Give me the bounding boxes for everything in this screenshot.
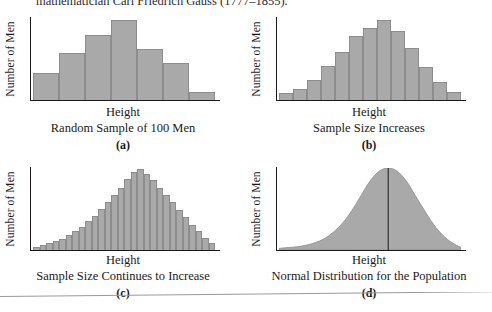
x-axis-line-b: [276, 100, 466, 101]
caption-d: Height Normal Distribution for the Popul…: [246, 253, 492, 301]
histogram-bar: [321, 66, 335, 100]
normal-curve-d: [279, 168, 461, 250]
histogram-bar: [363, 28, 377, 100]
x-axis-line-c: [30, 250, 220, 251]
histogram-bar: [163, 63, 189, 100]
y-axis-line-c: [30, 167, 31, 251]
figure-grid: Number of Men Height Random Sample of 10…: [0, 13, 492, 312]
histogram-bar: [85, 35, 111, 100]
histogram-bar: [293, 89, 307, 100]
histogram-bar: [33, 73, 59, 100]
y-axis-line-b: [276, 17, 277, 101]
caption-a: Height Random Sample of 100 Men (a): [0, 105, 246, 153]
histogram-bar: [307, 80, 321, 100]
x-axis-label-b: Height: [246, 105, 492, 120]
histogram-bar: [209, 243, 216, 250]
y-axis-label-a: Number of Men: [2, 17, 18, 101]
y-axis-line-d: [276, 167, 277, 251]
histogram-bar: [349, 36, 363, 100]
histogram-bar: [419, 67, 433, 100]
histogram-bar: [279, 93, 293, 100]
histogram-bar: [433, 82, 447, 100]
histogram-bar: [377, 20, 391, 100]
plot-area-b: [276, 17, 466, 101]
y-axis-label-c: Number of Men: [2, 167, 18, 251]
histogram-bar: [189, 92, 215, 100]
histogram-bars-c: [33, 168, 215, 250]
panel-title-b: Sample Size Increases: [246, 120, 492, 136]
y-axis-label-b: Number of Men: [248, 17, 264, 101]
caption-b: Height Sample Size Increases (b): [246, 105, 492, 153]
panel-title-d: Normal Distribution for the Population: [246, 268, 492, 284]
panel-d: Number of Men Height Normal Distribution…: [246, 163, 492, 312]
x-axis-label-d: Height: [246, 253, 492, 268]
histogram-bar: [391, 31, 405, 100]
histogram-bar: [447, 92, 461, 100]
y-axis-line-a: [30, 17, 31, 101]
panel-c: Number of Men Height Sample Size Continu…: [0, 163, 246, 312]
histogram-bar: [59, 53, 85, 100]
panel-letter-a: (a): [0, 137, 246, 153]
histogram-bar: [137, 49, 163, 100]
panel-title-c: Sample Size Continues to Increase: [0, 268, 246, 284]
panel-letter-d: (d): [246, 285, 492, 301]
plot-area-a: [30, 17, 220, 101]
histogram-bars-b: [279, 18, 461, 100]
x-axis-label-a: Height: [0, 105, 246, 120]
caption-c: Height Sample Size Continues to Increase…: [0, 253, 246, 301]
histogram-bars-a: [33, 18, 215, 100]
plot-area-c: [30, 167, 220, 251]
x-axis-label-c: Height: [0, 253, 246, 268]
panel-letter-b: (b): [246, 137, 492, 153]
normal-curve-area: [279, 168, 461, 250]
x-axis-line-a: [30, 100, 220, 101]
histogram-bar: [111, 20, 137, 100]
panel-title-a: Random Sample of 100 Men: [0, 120, 246, 136]
panel-b: Number of Men Height Sample Size Increas…: [246, 13, 492, 162]
panel-letter-c: (c): [0, 285, 246, 301]
panel-a: Number of Men Height Random Sample of 10…: [0, 13, 246, 162]
x-axis-line-d: [276, 250, 466, 251]
histogram-bar: [335, 52, 349, 100]
histogram-bar: [405, 48, 419, 100]
running-body-text: mathematician Carl Friedrich Gauss (1777…: [36, 0, 466, 8]
plot-area-d: [276, 167, 466, 251]
y-axis-label-d: Number of Men: [248, 167, 264, 251]
